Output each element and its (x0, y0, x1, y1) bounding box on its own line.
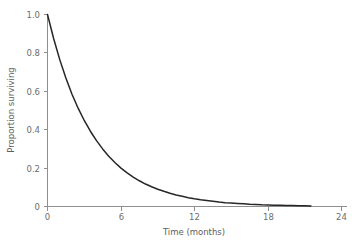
y-tick-label: 0.8 (26, 48, 40, 58)
x-tick-label: 18 (263, 212, 274, 222)
x-tick-label: 6 (119, 212, 124, 222)
y-axis-title: Proportion surviving (6, 67, 16, 152)
x-tick-label: 12 (189, 212, 200, 222)
y-tick-label: 0.2 (26, 164, 40, 174)
x-axis-title: Time (months) (162, 227, 225, 237)
y-tick-label: 0.4 (26, 125, 40, 135)
y-tick-label: 1.0 (26, 10, 40, 20)
y-tick-label: 0 (35, 202, 40, 212)
chart-page: 1.0 0.8 0.6 0.4 0.2 0 0 6 12 18 24 Time … (0, 0, 358, 242)
x-tick-label: 24 (336, 212, 347, 222)
survival-curve-chart: 1.0 0.8 0.6 0.4 0.2 0 0 6 12 18 24 Time … (0, 0, 358, 242)
x-tick-label: 0 (45, 212, 50, 222)
y-tick-label: 0.6 (26, 87, 40, 97)
